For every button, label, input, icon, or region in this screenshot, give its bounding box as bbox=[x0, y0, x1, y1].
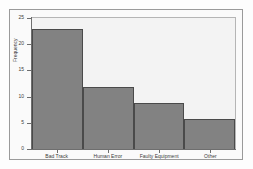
y-axis-tick-label: 5 bbox=[21, 120, 24, 125]
bar-slot bbox=[184, 18, 235, 150]
y-axis-title: Frequency bbox=[12, 38, 18, 62]
y-axis-tick-mark bbox=[27, 123, 31, 124]
y-axis-tick-mark bbox=[27, 18, 31, 19]
y-axis-tick-label: 25 bbox=[18, 15, 24, 20]
y-axis-tick-mark bbox=[27, 97, 31, 98]
y-axis-tick-label: 15 bbox=[18, 67, 24, 72]
bar-slot bbox=[83, 18, 134, 150]
y-axis-line bbox=[31, 17, 32, 150]
bar-bad-track[interactable] bbox=[32, 29, 83, 150]
x-axis-line bbox=[31, 149, 236, 150]
y-axis-tick-label: 20 bbox=[18, 41, 24, 46]
bar-human-error[interactable] bbox=[83, 87, 134, 150]
bar-other[interactable] bbox=[184, 119, 235, 150]
x-axis-tick-label: Faulty Equipment bbox=[140, 153, 179, 159]
y-axis-tick-label: 10 bbox=[18, 94, 24, 99]
bar-faulty-equipment[interactable] bbox=[134, 103, 185, 150]
bar-slot bbox=[134, 18, 185, 150]
bar-slot bbox=[32, 18, 83, 150]
y-axis-tick-mark bbox=[27, 70, 31, 71]
x-axis-tick-label: Other bbox=[204, 153, 217, 159]
x-axis-tick-label: Bad Track bbox=[45, 153, 68, 159]
chart-screenshot: 0510152025 Bad TrackHuman ErrorFaulty Eq… bbox=[0, 0, 253, 169]
y-axis-tick-mark bbox=[27, 44, 31, 45]
y-axis-tick-mark bbox=[27, 149, 31, 150]
y-axis-tick-label: 0 bbox=[21, 146, 24, 151]
x-axis-tick-label: Human Error bbox=[94, 153, 123, 159]
bars-area bbox=[32, 18, 235, 150]
